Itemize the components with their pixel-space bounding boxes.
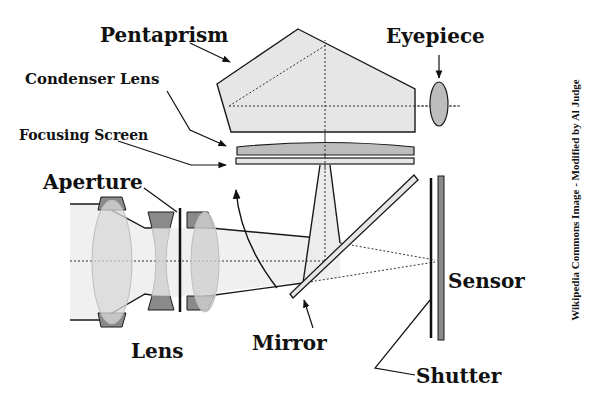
label-sensor: Sensor <box>448 269 525 293</box>
label-pentaprism: Pentaprism <box>100 23 229 47</box>
focusing-screen-leader <box>118 141 226 165</box>
label-focusing-screen: Focusing Screen <box>19 127 148 143</box>
label-lens: Lens <box>131 339 184 363</box>
image-credit: Wikipedia Commons Image - Modified by Al… <box>569 79 581 321</box>
label-aperture: Aperture <box>42 170 143 194</box>
sensor <box>438 176 444 340</box>
mirror-leader <box>304 300 313 328</box>
label-condenser-lens: Condenser Lens <box>25 70 159 88</box>
slr-diagram: Pentaprism Condenser Lens Focusing Scree… <box>0 0 594 399</box>
lens-assembly <box>92 197 219 327</box>
eyepiece-lens <box>430 82 448 126</box>
label-shutter: Shutter <box>416 364 502 388</box>
label-eyepiece: Eyepiece <box>386 24 485 48</box>
label-mirror: Mirror <box>252 331 327 355</box>
condenser-leader <box>167 91 226 146</box>
aperture-leader <box>144 188 177 212</box>
